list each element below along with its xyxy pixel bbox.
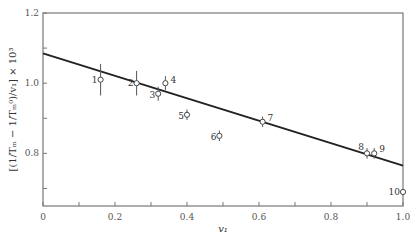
point-marker bbox=[156, 91, 161, 96]
point-label: 2 bbox=[128, 78, 134, 88]
x-tick-label: 0.2 bbox=[108, 212, 122, 222]
x-tick-label: 0.4 bbox=[180, 212, 195, 222]
y-tick-label: 0.8 bbox=[25, 148, 40, 158]
x-tick-label: 0.8 bbox=[324, 212, 339, 222]
fit-line bbox=[43, 53, 403, 165]
axes: 00.20.40.60.81.00.81.01.2 bbox=[25, 8, 411, 222]
point-marker bbox=[134, 81, 139, 86]
point-label: 3 bbox=[149, 90, 155, 100]
data-point: 6 bbox=[211, 131, 222, 142]
x-tick-label: 0 bbox=[40, 212, 46, 222]
point-label: 9 bbox=[379, 144, 385, 154]
point-label: 4 bbox=[170, 75, 176, 85]
x-tick-label: 0.6 bbox=[252, 212, 267, 222]
point-label: 10 bbox=[389, 187, 401, 197]
data-point: 2 bbox=[128, 71, 139, 96]
point-label: 1 bbox=[92, 75, 98, 85]
y-tick-label: 1.0 bbox=[25, 78, 40, 88]
data-point: 4 bbox=[163, 75, 177, 90]
x-tick-label: 1.0 bbox=[396, 212, 411, 222]
y-axis-title: [(1/Tₘ − 1/Tₘ⁰)/v₁] × 10³ bbox=[7, 48, 18, 172]
point-marker bbox=[217, 133, 222, 138]
y-tick-label: 1.2 bbox=[25, 8, 39, 18]
point-marker bbox=[163, 81, 168, 86]
point-marker bbox=[98, 77, 103, 82]
point-label: 5 bbox=[178, 111, 184, 121]
data-point: 5 bbox=[178, 110, 189, 121]
point-marker bbox=[364, 151, 369, 156]
point-marker bbox=[260, 119, 265, 124]
scatter-chart: 00.20.40.60.81.00.81.01.2 12345678910 v₁… bbox=[0, 0, 417, 240]
point-marker bbox=[400, 189, 405, 194]
x-axis-title: v₁ bbox=[218, 223, 228, 234]
point-label: 6 bbox=[211, 132, 217, 142]
fit-line bbox=[43, 53, 403, 165]
point-marker bbox=[184, 112, 189, 117]
point-marker bbox=[372, 151, 377, 156]
data-point: 8 bbox=[358, 142, 369, 158]
point-label: 8 bbox=[358, 142, 364, 152]
data-points: 12345678910 bbox=[92, 64, 406, 197]
point-label: 7 bbox=[268, 113, 274, 123]
